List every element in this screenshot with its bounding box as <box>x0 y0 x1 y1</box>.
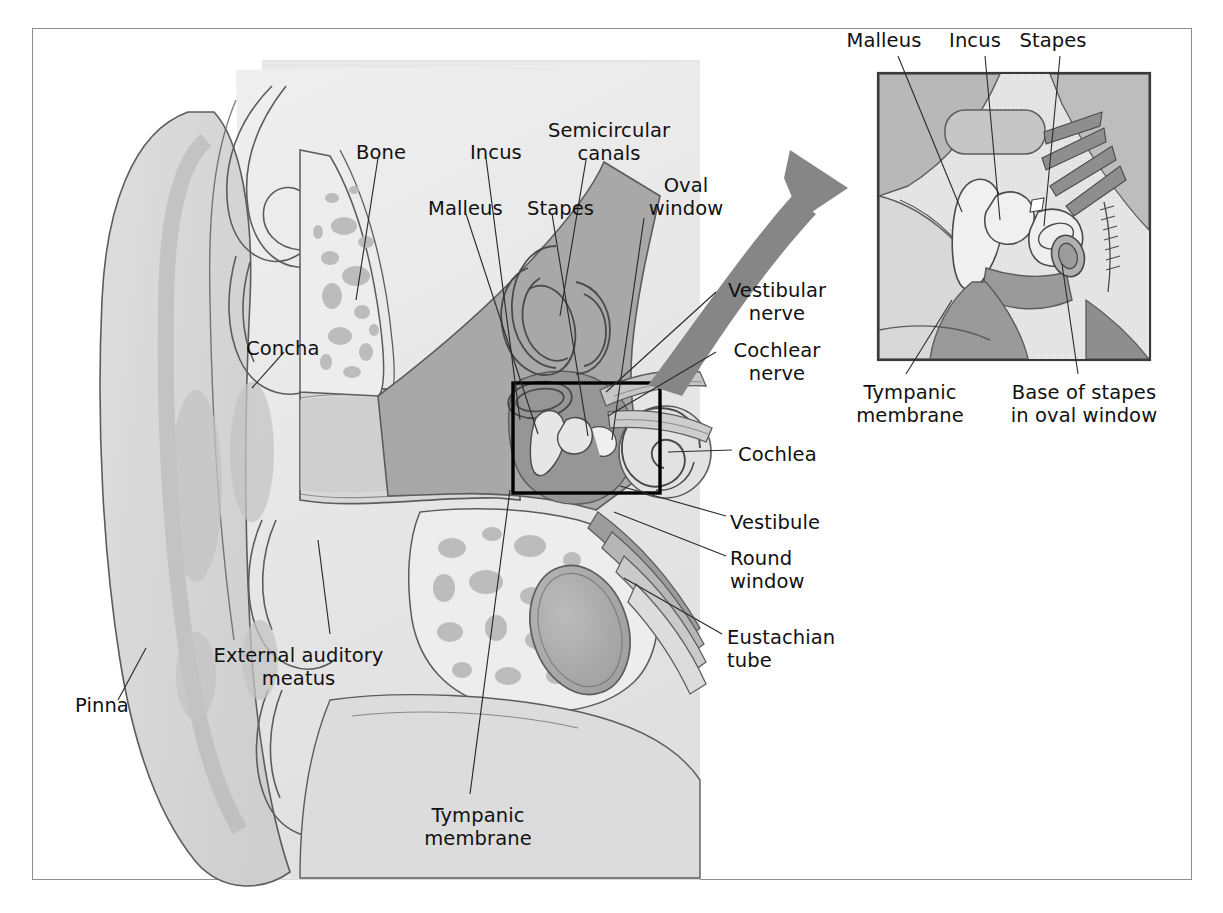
label-cochlea: Cochlea <box>738 444 817 467</box>
label-external-auditory-meatus: External auditory meatus <box>206 645 391 690</box>
label-inset-malleus: Malleus <box>838 30 930 53</box>
label-cochlear-nerve: Cochlear nerve <box>722 340 832 385</box>
label-tympanic-membrane: Tympanic membrane <box>408 805 548 850</box>
label-concha: Concha <box>246 338 320 361</box>
label-vestibule: Vestibule <box>730 512 820 535</box>
label-bone: Bone <box>356 142 406 165</box>
label-round-window: Round window <box>730 548 805 593</box>
label-semicircular-canals: Semicircular canals <box>544 120 674 165</box>
label-malleus: Malleus <box>428 198 503 221</box>
label-inset-stapes: Stapes <box>1012 30 1094 53</box>
label-inset-tympanic-membrane: Tympanic membrane <box>845 382 975 427</box>
label-vestibular-nerve: Vestibular nerve <box>722 280 832 325</box>
label-stapes: Stapes <box>527 198 594 221</box>
label-eustachian-tube: Eustachian tube <box>727 627 835 672</box>
label-inset-base-of-stapes: Base of stapes in oval window <box>1000 382 1168 427</box>
label-incus: Incus <box>470 142 522 165</box>
label-oval-window: Oval window <box>640 175 732 220</box>
inset-panel <box>878 73 1150 360</box>
label-pinna: Pinna <box>75 695 129 718</box>
figure-root: Bone Incus Semicircular canals Malleus S… <box>0 0 1223 913</box>
label-inset-incus: Incus <box>938 30 1012 53</box>
